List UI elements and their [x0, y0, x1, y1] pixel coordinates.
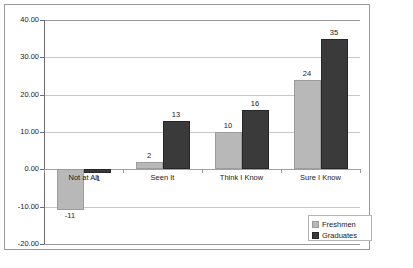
- y-axis-tick: [40, 57, 44, 58]
- bar-graduates-2: [242, 110, 269, 170]
- gridline: [44, 207, 360, 208]
- bar-freshmen-1: [136, 162, 163, 169]
- x-axis-category-label: Seen It: [123, 173, 202, 182]
- y-axis-tick-label: 20.00: [5, 91, 39, 99]
- x-axis-tick: [123, 169, 124, 173]
- y-axis-tick-label: 40.00: [5, 16, 39, 24]
- y-axis-tick: [40, 244, 44, 245]
- legend-item-graduates: Graduates: [312, 230, 371, 240]
- gridline: [44, 57, 360, 58]
- bar-graduates-1: [163, 121, 190, 170]
- y-axis-tick-label: 0.00: [5, 165, 39, 173]
- y-axis-tick: [40, 20, 44, 21]
- y-axis-tick-label: 10.00: [5, 128, 39, 136]
- y-axis-tick-label: 30.00: [5, 53, 39, 61]
- x-axis-tick: [44, 169, 45, 173]
- legend-item-freshmen: Freshmen: [312, 219, 371, 229]
- y-axis-tick: [40, 132, 44, 133]
- chart-legend: Freshmen Graduates: [308, 215, 372, 241]
- x-axis-tick: [360, 169, 361, 173]
- gridline: [44, 244, 360, 245]
- bar-value-label: 16: [236, 99, 275, 108]
- legend-label-graduates: Graduates: [322, 231, 357, 240]
- bar-value-label: -11: [51, 211, 90, 220]
- x-axis-category-label: Not at All: [44, 173, 123, 182]
- legend-swatch-freshmen: [312, 221, 319, 228]
- x-axis-category-label: Sure I Know: [281, 173, 360, 182]
- bar-freshmen-3: [294, 80, 321, 170]
- y-axis-tick-label: -20.00: [5, 240, 39, 248]
- gridline: [44, 20, 360, 21]
- y-axis-tick-label: -10.00: [5, 203, 39, 211]
- bar-value-label: 13: [157, 110, 196, 119]
- bar-value-label: 35: [315, 28, 354, 37]
- x-axis-tick: [281, 169, 282, 173]
- bar-graduates-3: [321, 39, 348, 170]
- x-axis-tick: [202, 169, 203, 173]
- bar-freshmen-2: [215, 132, 242, 169]
- legend-label-freshmen: Freshmen: [322, 220, 356, 229]
- legend-swatch-graduates: [312, 232, 319, 239]
- y-axis-tick: [40, 95, 44, 96]
- chart-frame: -11-1Not at All213Seen It1016Think I Kno…: [4, 4, 370, 250]
- y-axis-tick: [40, 207, 44, 208]
- y-axis-line: [44, 20, 45, 244]
- x-axis-category-label: Think I Know: [202, 173, 281, 182]
- plot-area: -11-1Not at All213Seen It1016Think I Kno…: [44, 20, 360, 244]
